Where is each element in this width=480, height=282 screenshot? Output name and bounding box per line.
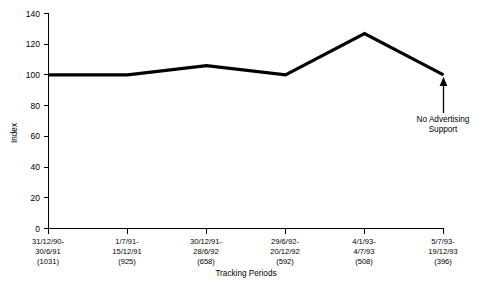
annotation-arrow-head	[440, 77, 448, 86]
x-tick-label-0-line2: 30/6/91	[35, 247, 60, 256]
y-tick-label-80: 80	[31, 101, 41, 111]
x-tick-label-3-line3: (592)	[276, 257, 294, 266]
x-tick-label-group-5: 5/7/93- 19/12/93 (396)	[428, 237, 458, 266]
x-tick-label-0-line1: 31/12/90-	[32, 237, 65, 246]
chart-container: 140 120 100 80 60 40 20 0 Index 31/12/90…	[0, 0, 480, 282]
x-tick-label-group-3: 29/6/92- 20/12/92 (592)	[270, 237, 300, 266]
x-tick-label-5-line2: 19/12/93	[428, 247, 458, 256]
y-axis-tick-labels: 140 120 100 80 60 40 20 0	[26, 9, 40, 234]
annotation-text-line1: No Advertising	[417, 115, 470, 124]
y-tick-label-20: 20	[31, 193, 41, 203]
x-tick-label-4-line1: 4/1/93-	[352, 237, 376, 246]
x-tick-label-2-line3: (658)	[197, 257, 215, 266]
annotation-no-advertising-support: No Advertising Support	[417, 115, 470, 134]
x-tick-label-4-line2: 4/7/93	[353, 247, 374, 256]
x-tick-label-5-line3: (396)	[434, 257, 452, 266]
y-tick-label-100: 100	[26, 70, 40, 80]
annotation-arrow	[440, 77, 448, 113]
y-tick-label-120: 120	[26, 39, 40, 49]
x-tick-label-1-line3: (925)	[118, 257, 136, 266]
x-tick-label-1-line2: 15/12/91	[112, 247, 142, 256]
annotation-text-line2: Support	[429, 125, 458, 134]
x-axis-ticks	[49, 229, 444, 234]
x-tick-label-5-line1: 5/7/93-	[431, 237, 455, 246]
x-axis-tick-labels: 31/12/90- 30/6/91 (1031) 1/7/91- 15/12/9…	[32, 237, 458, 266]
x-tick-label-group-4: 4/1/93- 4/7/93 (508)	[352, 237, 376, 266]
x-tick-label-group-0: 31/12/90- 30/6/91 (1031)	[32, 237, 65, 266]
y-axis-title: Index	[10, 123, 19, 143]
x-tick-label-0-line3: (1031)	[37, 257, 59, 266]
x-tick-label-group-1: 1/7/91- 15/12/91 (925)	[112, 237, 142, 266]
x-tick-label-3-line2: 20/12/92	[270, 247, 300, 256]
x-tick-label-4-line3: (508)	[355, 257, 373, 266]
x-tick-label-2-line1: 30/12/91-	[190, 237, 223, 246]
y-tick-label-60: 60	[31, 131, 41, 141]
series-line-index	[49, 33, 444, 74]
x-tick-label-1-line1: 1/7/91-	[115, 237, 139, 246]
y-tick-label-140: 140	[26, 9, 40, 19]
x-tick-label-group-2: 30/12/91- 28/6/92 (658)	[190, 237, 223, 266]
y-tick-label-40: 40	[31, 162, 41, 172]
x-tick-label-3-line1: 29/6/92-	[271, 237, 299, 246]
line-chart: 140 120 100 80 60 40 20 0 Index 31/12/90…	[0, 0, 480, 282]
y-tick-label-0: 0	[35, 224, 40, 234]
y-axis-ticks	[44, 14, 49, 229]
x-tick-label-2-line2: 28/6/92	[193, 247, 218, 256]
x-axis-title: Tracking Periods	[215, 269, 276, 278]
